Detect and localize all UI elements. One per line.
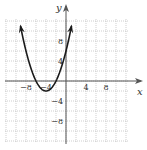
x-tick-label: 8 (103, 83, 108, 92)
x-tick-label: 4 (83, 83, 88, 92)
coordinate-graph: x y −8−44884−4−8 (0, 0, 147, 150)
x-axis-label: x (137, 86, 143, 97)
y-tick-label: 8 (58, 37, 63, 46)
x-tick-label: −8 (20, 83, 32, 92)
y-axis-label: y (55, 2, 62, 13)
y-tick-label: −4 (51, 97, 63, 106)
y-tick-label: −8 (51, 117, 63, 126)
